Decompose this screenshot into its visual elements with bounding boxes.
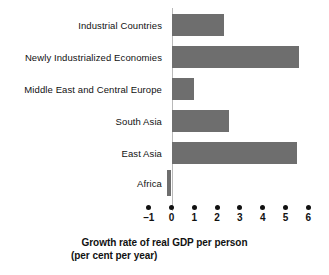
bar-row: Newly Industrialized Economies [0,42,329,72]
bar-middle-east-and-central-europe [172,78,195,100]
x-axis-tick: 0 [161,205,183,223]
bar-row: East Asia [0,138,329,168]
x-axis-tick-label: –1 [138,212,160,223]
category-label: South Asia [116,116,162,127]
x-axis-tick-label: 5 [275,212,297,223]
category-label: Africa [137,178,162,189]
x-axis-tick: 5 [275,205,297,223]
tick-dot-icon [146,205,151,210]
category-label: Newly Industrialized Economies [25,52,162,63]
bar-row: Industrial Countries [0,10,329,40]
bar-east-asia [172,142,297,164]
x-axis-tick-label: 3 [229,212,251,223]
x-axis-title-line2: (per cent per year) [0,250,329,263]
tick-dot-icon [215,205,220,210]
bar-newly-industrialized-economies [172,46,300,68]
tick-dot-icon [169,205,174,210]
x-axis-tick-label: 2 [206,212,228,223]
x-axis: –10123456 [0,205,329,235]
x-axis-tick: 6 [297,205,319,223]
x-axis-tick: 2 [206,205,228,223]
bar-south-asia [172,110,229,132]
tick-dot-icon [237,205,242,210]
category-label: Industrial Countries [78,20,162,31]
bar-row: South Asia [0,106,329,136]
bar-chart-figure: Industrial Countries Newly Industrialize… [0,0,329,275]
bar-africa [167,170,172,196]
bar-industrial-countries [172,14,224,36]
x-axis-tick-label: 4 [252,212,274,223]
category-label: East Asia [121,148,162,159]
x-axis-tick-label: 6 [297,212,319,223]
x-axis-title-line1: Growth rate of real GDP per person [82,237,248,248]
tick-dot-icon [306,205,311,210]
x-axis-tick-label: 1 [183,212,205,223]
bar-row: Africa [0,168,329,198]
tick-dot-icon [260,205,265,210]
x-axis-tick-label: 0 [161,212,183,223]
bar-row: Middle East and Central Europe [0,74,329,104]
x-axis-tick: –1 [138,205,160,223]
tick-dot-icon [283,205,288,210]
category-label: Middle East and Central Europe [24,84,162,95]
x-axis-tick: 4 [252,205,274,223]
plot-area: Industrial Countries Newly Industrialize… [0,0,329,205]
x-axis-tick: 3 [229,205,251,223]
tick-dot-icon [192,205,197,210]
x-axis-title: Growth rate of real GDP per person (per … [0,237,329,262]
x-axis-tick: 1 [183,205,205,223]
